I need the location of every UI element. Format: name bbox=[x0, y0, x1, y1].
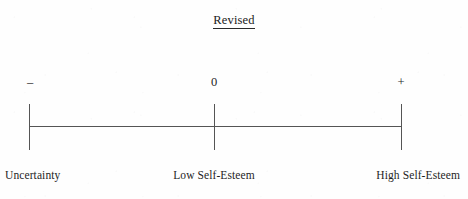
axis-tick-high-self-esteem bbox=[401, 104, 402, 150]
figure-title-text: Revised bbox=[213, 13, 254, 29]
axis-tick-low-self-esteem bbox=[214, 104, 215, 150]
scale-mark-zero: 0 bbox=[194, 74, 234, 90]
axis-tick-uncertainty bbox=[29, 104, 30, 150]
scale-mark-positive: + bbox=[381, 74, 421, 90]
figure-title: Revised bbox=[0, 13, 468, 28]
axis-label-uncertainty: Uncertainty bbox=[5, 168, 60, 182]
figure-container: Revised – 0 + Uncertainty Low Self-Estee… bbox=[0, 0, 468, 199]
axis-line bbox=[29, 126, 402, 127]
axis-label-low-self-esteem: Low Self-Esteem bbox=[114, 168, 314, 182]
scale-mark-negative: – bbox=[10, 74, 50, 90]
axis-label-high-self-esteem: High Self-Esteem bbox=[376, 168, 460, 182]
